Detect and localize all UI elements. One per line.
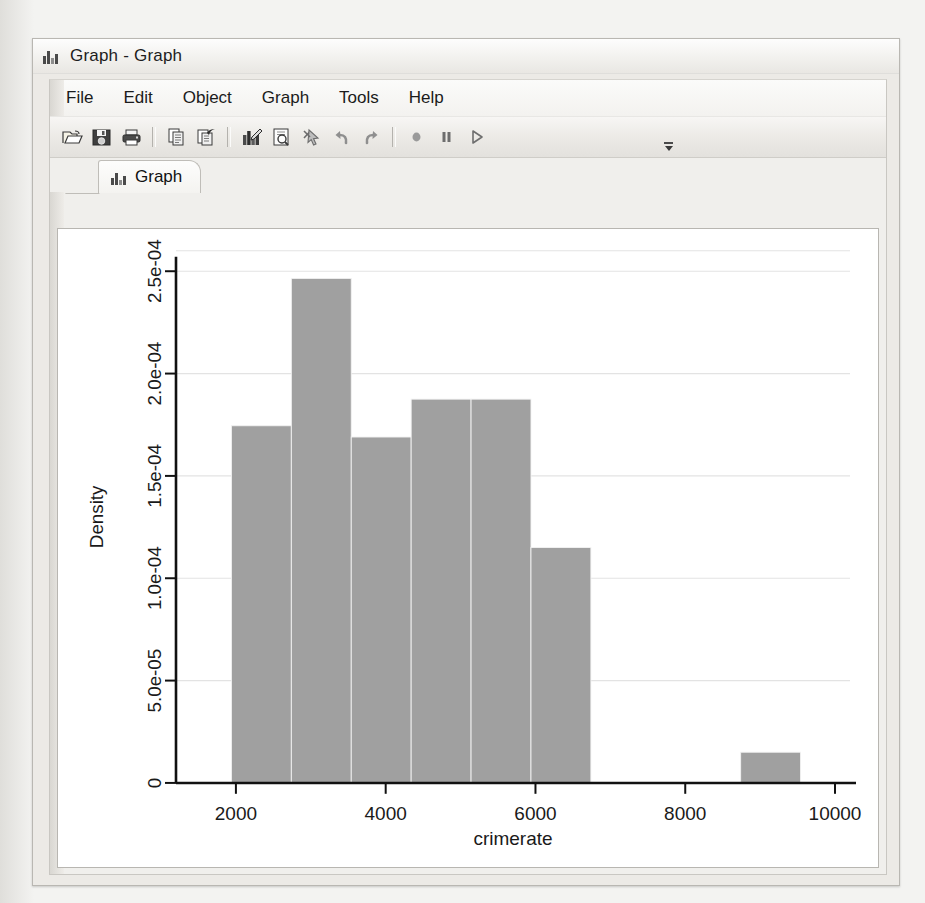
scan-edge-shadow (0, 0, 34, 903)
y-tick-label: 2.0e-04 (144, 342, 165, 406)
y-tick-label: 1.0e-04 (144, 546, 165, 610)
y-axis-title: Density (86, 485, 107, 548)
open-icon[interactable] (58, 124, 85, 150)
menu-tools[interactable]: Tools (337, 86, 381, 110)
x-tick-label: 4000 (365, 803, 407, 824)
tab-graph[interactable]: Graph (98, 160, 201, 193)
redo-icon[interactable] (358, 124, 385, 150)
x-tick-label: 2000 (215, 803, 257, 824)
window-client-frame: File Edit Object Graph Tools Help (49, 79, 887, 875)
menu-object[interactable]: Object (181, 86, 234, 110)
record-icon[interactable] (403, 124, 430, 150)
x-tick-label: 6000 (514, 803, 556, 824)
x-tick-label: 10000 (809, 803, 862, 824)
tab-graph-label: Graph (135, 167, 182, 187)
graph-surface: 20004000600080001000005.0e-051.0e-041.5e… (58, 229, 878, 867)
pointer-tool-icon[interactable] (298, 124, 325, 150)
y-tick-label: 1.5e-04 (144, 444, 165, 508)
separator-2 (227, 127, 231, 147)
tabstrip: Graph (50, 158, 886, 192)
chevron-down-icon (665, 146, 673, 151)
window-titlebar: Graph - Graph (33, 39, 899, 74)
y-tick-label: 0 (144, 778, 165, 788)
histogram-bar (471, 399, 531, 783)
toolbar-overflow-button[interactable] (663, 123, 674, 151)
menu-edit[interactable]: Edit (121, 86, 154, 110)
x-tick-label: 8000 (664, 803, 706, 824)
menu-file[interactable]: File (64, 86, 95, 110)
preview-icon[interactable] (268, 124, 295, 150)
histogram-svg: 20004000600080001000005.0e-051.0e-041.5e… (58, 229, 878, 867)
graph-editor-icon[interactable] (238, 124, 265, 150)
menu-help[interactable]: Help (407, 86, 446, 110)
y-tick-label: 2.5e-04 (144, 239, 165, 303)
bar-chart-icon (111, 170, 128, 185)
menu-graph[interactable]: Graph (260, 86, 311, 110)
save-icon[interactable] (88, 124, 115, 150)
separator-1 (152, 127, 156, 147)
undo-icon[interactable] (328, 124, 355, 150)
histogram-bar (411, 399, 471, 783)
overflow-bar (664, 142, 673, 144)
paste-icon[interactable] (193, 124, 220, 150)
copy-icon[interactable] (163, 124, 190, 150)
bar-chart-icon (43, 48, 61, 64)
window-title: Graph - Graph (70, 46, 182, 66)
toolbar (50, 116, 886, 158)
print-icon[interactable] (118, 124, 145, 150)
histogram-bar (351, 437, 411, 783)
histogram-bar (531, 548, 591, 783)
histogram-bar (741, 752, 801, 783)
x-axis-title: crimerate (473, 828, 552, 849)
graph-canvas[interactable]: 20004000600080001000005.0e-051.0e-041.5e… (57, 228, 879, 868)
histogram-bar (291, 278, 351, 783)
menubar: File Edit Object Graph Tools Help (50, 80, 886, 116)
y-tick-label: 5.0e-05 (144, 649, 165, 713)
histogram-bar (231, 426, 291, 783)
separator-3 (392, 127, 396, 147)
graph-window: Graph - Graph File Edit Object Graph Too… (32, 38, 900, 886)
play-icon[interactable] (463, 124, 490, 150)
pause-icon[interactable] (433, 124, 460, 150)
